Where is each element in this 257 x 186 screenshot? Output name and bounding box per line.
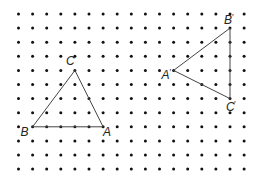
- grid-dot: [116, 41, 119, 44]
- grid-dot: [243, 154, 246, 157]
- grid-dot: [88, 168, 91, 171]
- grid-dot: [31, 13, 34, 16]
- grid-dot: [88, 27, 91, 30]
- grid-dot: [172, 41, 175, 44]
- grid-dot: [17, 69, 20, 72]
- grid-dot: [186, 154, 189, 157]
- grid-dot: [243, 41, 246, 44]
- grid-dot: [73, 83, 76, 86]
- grid-dot: [144, 139, 147, 142]
- grid-dot: [45, 13, 48, 16]
- grid-dot: [172, 168, 175, 171]
- grid-dot: [243, 111, 246, 114]
- grid-dot: [144, 83, 147, 86]
- grid-dot: [130, 13, 133, 16]
- grid-dot: [59, 13, 62, 16]
- grid-dot: [116, 13, 119, 16]
- grid-dot: [172, 111, 175, 114]
- grid-dot: [45, 154, 48, 157]
- grid-dot: [130, 83, 133, 86]
- grid-dots: [17, 13, 246, 171]
- grid-dot: [17, 154, 20, 157]
- grid-dot: [214, 55, 217, 58]
- grid-dot: [200, 111, 203, 114]
- grid-dot: [144, 13, 147, 16]
- grid-dot: [172, 139, 175, 142]
- grid-dot: [31, 139, 34, 142]
- grid-dot: [17, 139, 20, 142]
- grid-dot: [158, 125, 161, 128]
- grid-dot: [130, 154, 133, 157]
- grid-dot: [186, 111, 189, 114]
- grid-dot: [59, 139, 62, 142]
- grid-dot: [243, 125, 246, 128]
- grid-dot: [73, 27, 76, 30]
- grid-dot: [116, 111, 119, 114]
- prime-mark: ′: [234, 99, 236, 109]
- prime-mark: ′: [170, 67, 172, 77]
- grid-dot: [31, 27, 34, 30]
- grid-dot: [45, 168, 48, 171]
- grid-dot: [130, 41, 133, 44]
- grid-dot: [59, 154, 62, 157]
- grid-dot: [130, 69, 133, 72]
- grid-dot: [116, 168, 119, 171]
- grid-dot: [243, 97, 246, 100]
- grid-dot: [158, 27, 161, 30]
- grid-dot: [73, 111, 76, 114]
- grid-dot: [186, 13, 189, 16]
- grid-dot: [130, 125, 133, 128]
- grid-dot: [144, 168, 147, 171]
- grid-dot: [116, 97, 119, 100]
- grid-dot: [214, 83, 217, 86]
- grid-dot: [102, 41, 105, 44]
- grid-dot: [243, 83, 246, 86]
- grid-dot: [130, 111, 133, 114]
- grid-dot: [116, 139, 119, 142]
- grid-dot: [102, 168, 105, 171]
- grid-dot: [200, 154, 203, 157]
- grid-dot: [158, 139, 161, 142]
- grid-dot: [144, 69, 147, 72]
- grid-dot: [88, 41, 91, 44]
- grid-dot: [158, 83, 161, 86]
- grid-dot: [172, 27, 175, 30]
- grid-dot: [172, 13, 175, 16]
- grid-dot: [116, 55, 119, 58]
- grid-dot: [31, 41, 34, 44]
- grid-dot: [73, 97, 76, 100]
- grid-dot: [229, 125, 232, 128]
- grid-dot: [200, 168, 203, 171]
- grid-dot: [144, 27, 147, 30]
- grid-dot: [200, 41, 203, 44]
- grid-dot: [59, 83, 62, 86]
- grid-dot: [116, 83, 119, 86]
- grid-dot: [186, 83, 189, 86]
- grid-dot: [243, 69, 246, 72]
- triangle-outline: [33, 70, 104, 126]
- grid-dot: [229, 154, 232, 157]
- grid-dot: [172, 83, 175, 86]
- grid-dot: [31, 111, 34, 114]
- grid-dot: [116, 125, 119, 128]
- grid-dot: [144, 111, 147, 114]
- grid-dot: [158, 41, 161, 44]
- grid-dot: [200, 125, 203, 128]
- grid-dot: [59, 168, 62, 171]
- grid-dot: [172, 154, 175, 157]
- vertex-label-a-prime: A: [161, 68, 170, 82]
- grid-dot: [186, 125, 189, 128]
- grid-dot: [73, 41, 76, 44]
- grid-dot: [88, 139, 91, 142]
- grid-dot: [186, 27, 189, 30]
- vertex-label-c: C: [66, 54, 75, 68]
- grid-dot: [59, 111, 62, 114]
- grid-dot: [144, 154, 147, 157]
- grid-dot: [59, 27, 62, 30]
- vertex-label-b: B: [21, 125, 29, 139]
- grid-dot: [17, 111, 20, 114]
- grid-dot: [172, 97, 175, 100]
- grid-dot: [158, 111, 161, 114]
- grid-dot: [59, 97, 62, 100]
- grid-dot: [158, 69, 161, 72]
